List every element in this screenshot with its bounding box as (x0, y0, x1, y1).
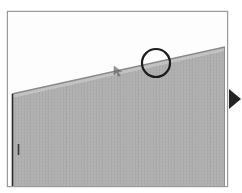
annotated-facade-figure (0, 0, 242, 193)
figure-stage (0, 0, 242, 193)
